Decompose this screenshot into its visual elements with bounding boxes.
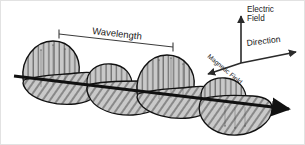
wavelength-measure: Wavelength [59, 25, 173, 52]
wave-diagram-canvas: Wavelength Electric Field Direction Magn… [1, 1, 305, 145]
electric-field-label-line2: Field [247, 14, 265, 23]
electromagnetic-wave-figure: Wavelength Electric Field Direction Magn… [0, 0, 305, 145]
axis-triad: Electric Field Direction Magnetic Field [206, 5, 296, 86]
direction-axis: Direction [241, 34, 296, 63]
electric-field-label-line1: Electric [247, 5, 274, 14]
direction-label: Direction [246, 34, 281, 48]
electric-field-axis: Electric Field [241, 5, 274, 63]
